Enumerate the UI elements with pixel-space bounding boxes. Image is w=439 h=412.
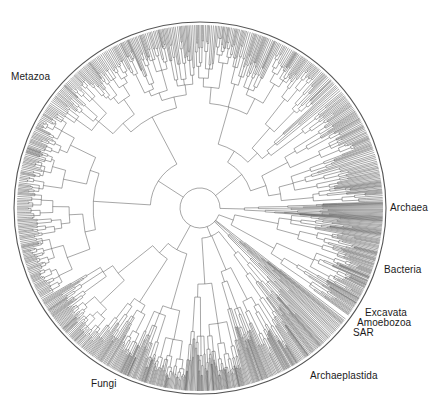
- label-sar: SAR: [353, 327, 374, 338]
- tree-branches: [17, 25, 383, 391]
- label-bacteria: Bacteria: [384, 264, 422, 275]
- label-fungi: Fungi: [91, 378, 117, 389]
- phylogenetic-tree: [0, 0, 439, 412]
- label-archaeplastida: Archaeplastida: [310, 370, 378, 381]
- label-archaea: Archaea: [390, 202, 428, 213]
- label-metazoa: Metazoa: [11, 71, 50, 82]
